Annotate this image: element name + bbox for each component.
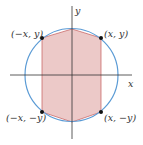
label-bottom-right: (x, −y) [104,112,136,123]
shaded-hexagon [42,29,101,122]
y-axis-label: y [74,5,81,16]
point-top-right [99,36,103,40]
label-top-right: (x, y) [104,28,128,39]
point-bottom-right [99,110,103,114]
x-axis-label: x [128,78,134,89]
diagram-canvas: y x (−x, y) (x, y) (−x, −y) (x, −y) [0,0,143,145]
label-bottom-left: (−x, −y) [6,112,46,123]
label-top-left: (−x, y) [11,28,43,39]
